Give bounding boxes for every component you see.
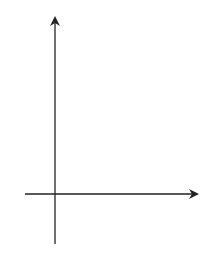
graph (0, 0, 214, 260)
